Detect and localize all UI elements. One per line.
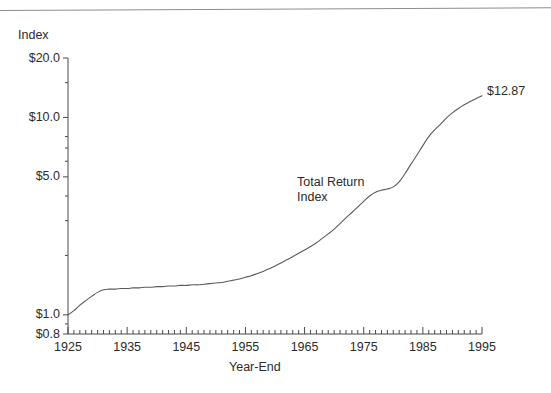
x-axis-tick-label: 1925 [45, 341, 91, 354]
axes [63, 58, 482, 334]
y-axis-tick-label: $0.8 [8, 328, 60, 341]
y-axis-tick-label: $20.0 [8, 52, 60, 65]
y-axis-tick-label: $5.0 [8, 170, 60, 183]
x-axis-tick-label: 1985 [400, 341, 446, 354]
x-axis-tick-label: 1965 [282, 341, 328, 354]
chart-figure: Index Year-End $20.0$10.0$5.0$1.0$0.8 19… [0, 0, 551, 393]
y-axis-title: Index [18, 29, 49, 42]
data-series-total-return-index [68, 96, 482, 315]
x-axis-tick-label: 1975 [341, 341, 387, 354]
plot-area [0, 0, 551, 393]
series-annotation-line-1: Total Return [297, 175, 364, 190]
x-axis-title: Year-End [229, 361, 281, 374]
series-annotation-line-2: Index [297, 190, 364, 205]
series-annotation: Total Return Index [297, 175, 364, 205]
x-axis-tick-label: 1935 [104, 341, 150, 354]
x-axis-tick-label: 1945 [163, 341, 209, 354]
y-axis-tick-label: $10.0 [8, 111, 60, 124]
x-axis-tick-label: 1995 [459, 341, 505, 354]
y-axis-tick-label: $1.0 [8, 308, 60, 321]
endpoint-value-label: $12.87 [487, 85, 525, 98]
x-axis-tick-label: 1955 [222, 341, 268, 354]
